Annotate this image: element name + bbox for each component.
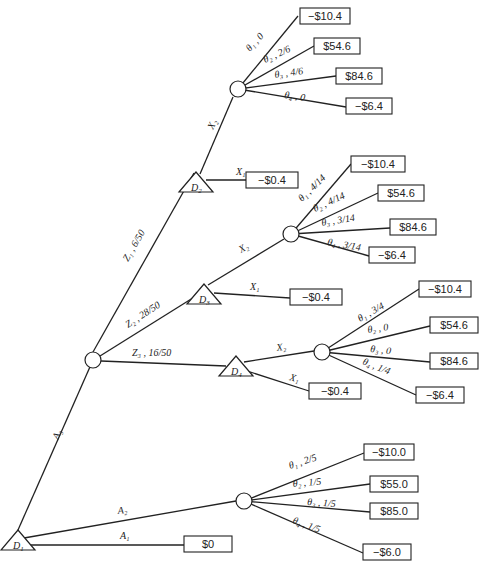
payoff-value: $55.0: [380, 478, 408, 490]
edge-label: X₁: [249, 281, 260, 292]
payoff-value: $0: [202, 538, 214, 550]
branch-label: θ₁ , 2/5: [287, 452, 318, 471]
payoff-value: $84.6: [345, 70, 373, 82]
chance-node-icon: [230, 81, 246, 97]
tree-edge: [101, 361, 226, 366]
payoff-box: −$6.0: [363, 544, 411, 560]
decision-node: D1: [1, 530, 35, 553]
payoff-box: $54.6: [314, 38, 360, 54]
payoff-box: $54.6: [430, 317, 478, 333]
decision-node: D2: [179, 172, 213, 195]
edge-label: A₁: [119, 530, 130, 541]
payoff-value: −$6.0: [373, 546, 401, 558]
decision-node: D3: [187, 284, 221, 307]
branch-label: θ₃ , 1/5: [307, 496, 336, 509]
branch-label: θ₃ , 0: [370, 343, 392, 356]
branch-label: θ₄ , 0: [284, 89, 306, 103]
tree-edges: A₃A₂A₁Z₁ , 6/50Z₂ , 28/50Z₃ , 16/50X₂X₁X…: [18, 97, 314, 545]
chance-node-icon: [314, 344, 330, 360]
payoff-value: −$0.4: [321, 385, 349, 397]
edge-label: Z₁ , 6/50: [120, 228, 147, 263]
tree-edge: [24, 501, 236, 538]
payoff-box: −$10.4: [351, 156, 405, 172]
payoff-value: −$10.0: [372, 446, 406, 458]
tree-edge: [93, 173, 194, 352]
payoff-box: $55.0: [370, 476, 418, 492]
payoff-box: $84.6: [390, 219, 436, 235]
payoff-box: $84.6: [430, 353, 478, 369]
payoff-box: $85.0: [370, 503, 418, 519]
tree-edge: [200, 97, 233, 174]
branch-label: θ₂ , 1/5: [292, 476, 322, 489]
edge-label: A₂: [116, 504, 128, 516]
payoff-value: −$10.4: [361, 158, 395, 170]
tree-edge: [214, 293, 290, 298]
payoff-value: $84.6: [440, 355, 468, 367]
chance-branches: θ₁ , 0θ₂ , 2/6θ₃ , 4/6θ₄ , 0θ₁ , 4/14θ₂ …: [238, 16, 430, 553]
payoff-box: −$6.4: [416, 387, 464, 403]
terminal-payoff-box: −$0.4: [246, 172, 298, 188]
edge-label: X₂: [236, 240, 251, 255]
edge-label: X₁: [288, 371, 301, 384]
edge-label: Z₃ , 16/50: [132, 347, 171, 358]
terminal-payoff-box: −$0.4: [309, 383, 361, 399]
payoff-value: $84.6: [399, 221, 427, 233]
payoff-value: $85.0: [380, 505, 408, 517]
payoff-value: −$10.4: [308, 10, 342, 22]
payoff-box: −$6.4: [346, 98, 392, 114]
payoff-boxes: −$10.4$54.6$84.6−$6.4−$10.4$54.6$84.6−$6…: [184, 8, 478, 560]
edge-label: X₁: [235, 166, 246, 177]
payoff-box: $84.6: [336, 68, 382, 84]
branch-label: θ₂ , 0: [367, 321, 389, 335]
payoff-value: −$6.4: [378, 249, 406, 261]
branch-label: θ₃ , 3/14: [321, 212, 356, 228]
decision-tree-diagram: A₃A₂A₁Z₁ , 6/50Z₂ , 28/50Z₃ , 16/50X₂X₁X…: [0, 0, 483, 569]
payoff-value: −$6.4: [355, 100, 383, 112]
chance-branch: [291, 228, 390, 234]
payoff-value: $54.6: [323, 40, 351, 52]
payoff-value: $54.6: [440, 319, 468, 331]
chance-node-icon: [236, 493, 252, 509]
payoff-value: $54.6: [387, 187, 415, 199]
payoff-value: −$0.4: [302, 291, 330, 303]
branch-label: θ₄ , 3/14: [327, 236, 362, 253]
terminal-payoff-box: −$0.4: [290, 289, 342, 305]
payoff-box: −$10.4: [419, 281, 471, 297]
payoff-box: $54.6: [378, 185, 424, 201]
branch-label: θ₄ , 1/5: [291, 515, 322, 535]
payoff-box: −$10.4: [300, 8, 350, 24]
edge-label: X₂: [204, 117, 219, 132]
payoff-box: −$6.4: [369, 247, 415, 263]
chance-node-icon: [85, 352, 101, 368]
branch-label: θ₁ , 0: [243, 30, 265, 53]
edge-label: X₂: [275, 341, 288, 353]
tree-edge: [18, 360, 93, 530]
payoff-value: −$10.4: [428, 283, 462, 295]
tree-nodes: D1D2D3D4: [1, 81, 330, 553]
terminal-payoff-box: $0: [184, 536, 232, 552]
chance-node-icon: [283, 226, 299, 242]
decision-node: D4: [219, 356, 253, 379]
edge-label: Z₂ , 28/50: [123, 299, 162, 330]
payoff-value: −$0.4: [258, 174, 286, 186]
payoff-value: −$6.4: [426, 389, 454, 401]
branch-label: θ₄ , 1/4: [361, 356, 392, 377]
branch-label: θ₃ , 4/6: [274, 65, 304, 80]
payoff-box: −$10.0: [364, 444, 414, 460]
